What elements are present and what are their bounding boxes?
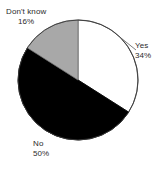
- slice-label-dont-know: Don't know 16%: [6, 7, 46, 26]
- slice-label-yes: Yes 34%: [135, 41, 151, 60]
- slice-label-yes-text: Yes: [135, 41, 148, 50]
- slice-value-no: 50%: [33, 149, 49, 159]
- slice-label-no: No 50%: [33, 139, 49, 158]
- pie-chart-figure: Don't know 16% Yes 34% No 50%: [0, 0, 160, 169]
- slice-value-dont-know: 16%: [6, 17, 46, 27]
- slice-label-no-text: No: [33, 139, 43, 148]
- slice-label-dont-know-text: Don't know: [6, 7, 46, 16]
- slice-value-yes: 34%: [135, 51, 151, 61]
